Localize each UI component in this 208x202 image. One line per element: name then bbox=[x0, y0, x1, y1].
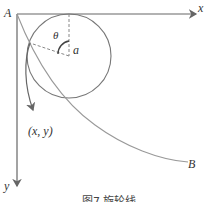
label-y-axis: y bbox=[3, 179, 10, 193]
angle-arc-icon bbox=[58, 41, 69, 54]
figure-caption: 图7 旋轮线 bbox=[82, 194, 137, 202]
label-origin: A bbox=[3, 6, 12, 20]
label-end: B bbox=[188, 157, 196, 171]
label-radius: a bbox=[73, 43, 79, 57]
label-angle: θ bbox=[53, 29, 59, 41]
label-point: (x, y) bbox=[28, 124, 53, 138]
cycloid-diagram: A x y θ a (x, y) B 图7 旋轮线 bbox=[0, 0, 208, 202]
label-x-axis: x bbox=[197, 1, 204, 15]
